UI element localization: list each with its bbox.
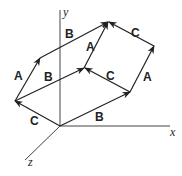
label-a-right: A (143, 70, 152, 84)
label-b-top: B (65, 27, 74, 41)
label-c-middle: C (106, 69, 115, 83)
label-c-origin: C (30, 114, 39, 128)
y-axis-label: y (62, 5, 69, 19)
label-c-top: C (131, 26, 140, 40)
label-b-middle: B (44, 70, 53, 84)
x-axis-label: x (169, 125, 176, 139)
vector-b-top (40, 22, 108, 58)
label-a-left: A (14, 69, 23, 83)
label-a-middle: A (86, 40, 95, 54)
label-b-bottom: B (95, 110, 104, 124)
z-axis-label: z (27, 155, 33, 169)
vector-a-right (130, 46, 154, 92)
vector-diagram: y x z C A B B A B C A C (0, 0, 182, 176)
